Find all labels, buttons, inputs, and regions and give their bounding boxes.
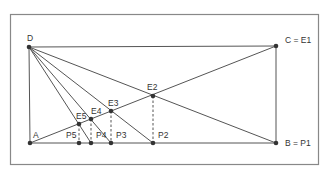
point-p4 (89, 141, 94, 146)
point-label-p2: P2 (158, 130, 169, 140)
point-c (274, 44, 279, 49)
point-label-p4: P4 (96, 130, 107, 140)
point-d (27, 45, 32, 50)
point-p5 (77, 141, 82, 146)
point-p3 (109, 141, 114, 146)
point-a (28, 141, 33, 146)
point-e4 (89, 117, 94, 122)
point-label-c: C = E1 (285, 35, 311, 45)
segment-d-p3 (29, 47, 111, 143)
point-label-p3: P3 (116, 130, 127, 140)
point-label-e2: E2 (147, 82, 158, 92)
point-label-e5: E5 (76, 111, 87, 121)
geometry-diagram: DC = E1AB = P1E2P2E3P3E4P4E5P5 (0, 0, 328, 174)
point-b (274, 141, 279, 146)
diagram-canvas: DC = E1AB = P1E2P2E3P3E4P4E5P5 (0, 0, 328, 174)
point-label-d: D (27, 33, 33, 43)
point-p2 (151, 141, 156, 146)
point-label-a: A (33, 130, 39, 140)
point-label-b: B = P1 (285, 138, 311, 148)
segment-d-a (29, 47, 30, 143)
point-e2 (151, 94, 156, 99)
point-e5 (77, 122, 82, 127)
point-label-e4: E4 (91, 106, 102, 116)
segment-d-c (29, 46, 276, 47)
segment-d-p4 (29, 47, 91, 143)
point-e3 (109, 109, 114, 114)
point-label-e3: E3 (108, 98, 119, 108)
point-label-p5: P5 (66, 130, 77, 140)
